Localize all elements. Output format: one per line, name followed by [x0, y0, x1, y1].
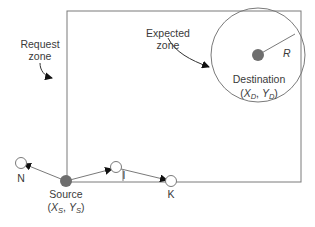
node-k-label: K: [167, 188, 174, 200]
request-zone-label-line2: zone: [29, 50, 52, 62]
request-zone-arrow: [40, 63, 52, 78]
expected-zone-label-line1: Expected: [146, 27, 190, 39]
node-i-label: I: [123, 169, 126, 181]
node-n-label: N: [17, 172, 25, 184]
radius-label: R: [283, 47, 291, 59]
request-zone-label-line1: Request: [20, 38, 59, 50]
node-n: [16, 158, 27, 169]
source-coords: (XS, YS): [48, 201, 85, 215]
node-i: [111, 162, 122, 173]
source-to-i-arrow: [66, 169, 112, 181]
destination-node: [252, 49, 264, 61]
source-node: [60, 175, 72, 187]
source-to-n-arrow: [24, 164, 66, 181]
destination-label: Destination: [233, 73, 286, 85]
node-k: [166, 176, 177, 187]
diagram-canvas: Request zone Expected zone R Destination…: [0, 0, 315, 227]
source-label: Source: [49, 188, 82, 200]
destination-coords: (XD, YD): [240, 87, 278, 101]
expected-zone-label-line2: zone: [157, 39, 180, 51]
